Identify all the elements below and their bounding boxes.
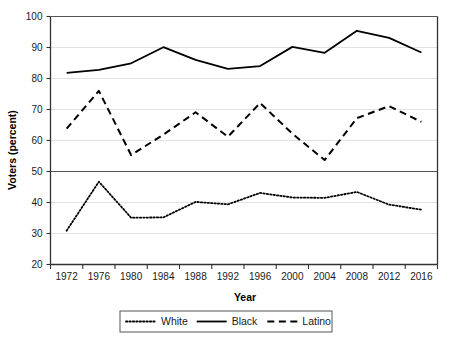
x-tick-label-1996: 1996 [249, 271, 272, 282]
legend-label-black: Black [232, 315, 258, 327]
y-tick-label-100: 100 [26, 11, 43, 22]
x-tick-label-2016: 2016 [410, 271, 433, 282]
x-tick-label-2004: 2004 [314, 271, 337, 282]
x-tick-label-1972: 1972 [56, 271, 79, 282]
x-axis-tick-labels: 1972197619801984198819921996200020042008… [56, 271, 433, 282]
x-tick-label-1992: 1992 [217, 271, 240, 282]
y-tick-label-80: 80 [31, 73, 43, 84]
legend-box: WhiteBlackLatino [120, 311, 332, 332]
y-axis-title: Voters (percent) [6, 110, 18, 190]
x-tick-label-2000: 2000 [281, 271, 304, 282]
legend-label-latino: Latino [302, 315, 331, 327]
chart-figure: 2030405060708090100 19721976198019841988… [0, 0, 452, 342]
x-tick-label-1976: 1976 [88, 271, 111, 282]
y-axis-tick-labels: 2030405060708090100 [26, 11, 43, 270]
x-axis-title: Year [234, 291, 256, 303]
plot-gridlines [51, 48, 438, 234]
x-tick-label-2008: 2008 [346, 271, 369, 282]
series-line-black [67, 31, 422, 73]
y-tick-label-20: 20 [31, 259, 43, 270]
x-axis-ticks [51, 265, 438, 270]
x-tick-label-1980: 1980 [120, 271, 143, 282]
legend-label-white: White [161, 315, 188, 327]
y-tick-label-50: 50 [31, 166, 43, 177]
chart-svg: 2030405060708090100 19721976198019841988… [0, 0, 452, 342]
data-series [67, 31, 422, 231]
series-line-white [67, 182, 422, 231]
x-tick-label-2012: 2012 [378, 271, 401, 282]
y-tick-label-70: 70 [31, 104, 43, 115]
y-tick-label-90: 90 [31, 42, 43, 53]
y-tick-label-30: 30 [31, 228, 43, 239]
x-tick-label-1984: 1984 [152, 271, 175, 282]
y-tick-label-40: 40 [31, 197, 43, 208]
y-tick-label-60: 60 [31, 135, 43, 146]
x-tick-label-1988: 1988 [185, 271, 208, 282]
series-line-latino [67, 91, 422, 160]
